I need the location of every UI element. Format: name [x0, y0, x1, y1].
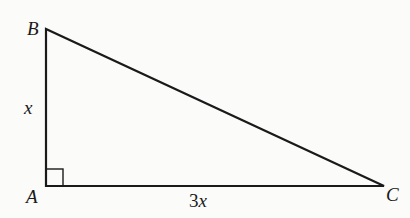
side-label-ac: 3x [189, 190, 208, 211]
right-angle-marker [46, 169, 63, 186]
side-label-ab: x [23, 97, 33, 118]
side-label-ac-coefficient: 3 [189, 190, 199, 211]
vertex-label-c: C [386, 184, 399, 205]
vertex-label-b: B [27, 18, 39, 39]
triangle-abc [46, 29, 384, 186]
vertex-label-a: A [24, 186, 38, 207]
side-label-ac-variable: x [198, 190, 208, 211]
triangle-diagram: B x A 3x C [0, 0, 410, 218]
